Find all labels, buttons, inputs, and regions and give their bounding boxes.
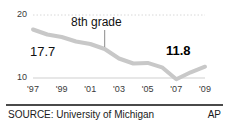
x-axis-tick-97: '97 <box>27 85 39 94</box>
x-axis-tick-99: '99 <box>56 85 68 94</box>
y-axis-label-top: 20 <box>17 10 27 19</box>
x-axis-tick-09: '09 <box>199 85 211 94</box>
x-axis-tick-01: '01 <box>84 85 96 94</box>
x-axis-tick-05: '05 <box>142 85 154 94</box>
series-callout-label: 8th grade <box>71 16 122 28</box>
footer-divider <box>6 104 223 106</box>
x-axis-tick-07: '07 <box>170 85 182 94</box>
chart-figure: 20 10 8th grade 17.7 11.8 '97'99'01'03'0… <box>0 0 229 125</box>
x-axis-tick-03: '03 <box>113 85 125 94</box>
chart-footer: SOURCE: University of Michigan AP <box>0 100 229 125</box>
agency-credit: AP <box>208 110 221 120</box>
source-attribution: SOURCE: University of Michigan <box>8 110 154 120</box>
end-value-label: 11.8 <box>166 44 191 57</box>
start-value-label: 17.7 <box>30 45 55 58</box>
plot-area: 20 10 8th grade 17.7 11.8 '97'99'01'03'0… <box>0 0 229 100</box>
y-axis-label-bottom: 10 <box>17 73 27 82</box>
x-axis-tick-labels: '97'99'01'03'05'07'09 <box>0 85 229 98</box>
